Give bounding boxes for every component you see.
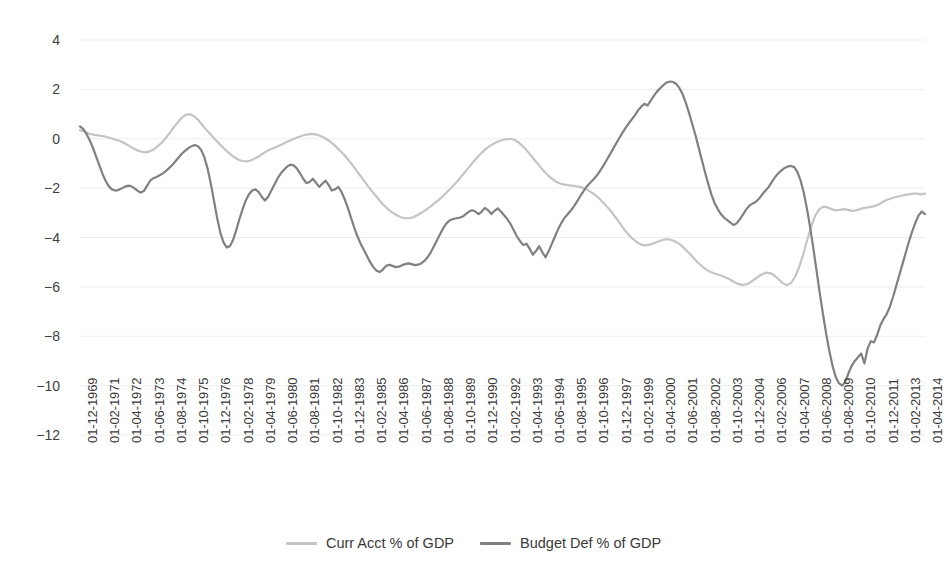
y-axis-tick-label: −12: [14, 427, 60, 443]
y-axis-tick-label: 4: [14, 32, 60, 48]
x-axis-tick-label: 01-04-1986: [396, 378, 411, 444]
legend-swatch-icon: [286, 542, 317, 545]
x-axis-tick-label: 01-04-2014: [930, 378, 945, 444]
x-axis-tick-label: 01-12-2004: [752, 378, 767, 444]
x-axis-tick-label: 01-12-1969: [85, 378, 100, 444]
x-axis-tick-label: 01-06-2008: [819, 378, 834, 444]
x-axis-tick-label: 01-06-1994: [552, 378, 567, 444]
x-axis-tick-label: 01-12-2011: [886, 378, 901, 443]
x-axis-tick-label: 01-02-1978: [241, 378, 256, 444]
y-axis-tick-label: −10: [14, 378, 60, 394]
x-axis-tick-label: 01-04-1972: [129, 378, 144, 444]
x-axis-tick-label: 01-12-1990: [485, 378, 500, 444]
x-axis-tick-label: 01-12-1976: [218, 378, 233, 444]
x-axis-tick-label: 01-10-1989: [463, 378, 478, 444]
y-axis-tick-label: −8: [14, 328, 60, 344]
chart-legend: Curr Acct % of GDPBudget Def % of GDP: [0, 536, 947, 551]
y-axis-tick-label: 2: [14, 81, 60, 97]
chart-container: 420−2−4−6−8−10−12 01-12-196901-02-197101…: [0, 0, 947, 577]
x-axis-tick-label: 01-06-1980: [285, 378, 300, 444]
x-axis-tick-label: 01-08-1995: [574, 378, 589, 444]
gridlines: [80, 40, 925, 435]
plot-area: [0, 0, 947, 577]
x-axis-tick-label: 01-12-1983: [352, 378, 367, 444]
legend-swatch-icon: [480, 542, 511, 545]
x-axis-tick-label: 01-08-2009: [841, 378, 856, 444]
x-axis-tick-label: 01-10-1982: [330, 378, 345, 444]
legend-label: Curr Acct % of GDP: [326, 536, 454, 551]
x-axis-tick-label: 01-06-1987: [419, 378, 434, 444]
x-axis-tick-label: 01-08-1988: [441, 378, 456, 444]
x-axis-tick-label: 01-06-2001: [685, 378, 700, 444]
x-axis-tick-label: 01-12-1997: [619, 378, 634, 444]
x-axis-tick-label: 01-10-1996: [596, 378, 611, 444]
x-axis-tick-label: 01-06-1973: [152, 378, 167, 444]
x-axis-tick-label: 01-02-1985: [374, 378, 389, 444]
x-axis-tick-label: 01-08-1974: [174, 378, 189, 444]
y-axis-tick-label: −4: [14, 230, 60, 246]
x-axis-tick-label: 01-08-2002: [708, 378, 723, 444]
y-axis-tick-label: −6: [14, 279, 60, 295]
x-axis-tick-label: 01-10-2010: [863, 378, 878, 444]
x-axis-tick-label: 01-04-1993: [530, 378, 545, 444]
y-axis-tick-label: 0: [14, 131, 60, 147]
series-lines: [80, 81, 925, 385]
x-axis-tick-label: 01-02-1971: [107, 378, 122, 444]
x-axis-tick-label: 01-04-2007: [797, 378, 812, 444]
x-axis-tick-label: 01-02-1992: [508, 378, 523, 444]
legend-item-1[interactable]: Curr Acct % of GDP: [286, 536, 454, 551]
x-axis-tick-label: 01-10-2003: [730, 378, 745, 444]
y-axis-tick-label: −2: [14, 180, 60, 196]
x-axis-tick-label: 01-04-2000: [663, 378, 678, 444]
x-axis-tick-label: 01-02-1999: [641, 378, 656, 444]
x-axis-tick-label: 01-10-1975: [196, 378, 211, 444]
legend-item-2[interactable]: Budget Def % of GDP: [480, 536, 661, 551]
series-line-2: [80, 81, 925, 385]
x-axis-tick-label: 01-04-1979: [263, 378, 278, 444]
x-axis-tick-label: 01-02-2013: [908, 378, 923, 444]
x-axis-tick-label: 01-02-2006: [774, 378, 789, 444]
legend-label: Budget Def % of GDP: [520, 536, 661, 551]
x-axis-tick-label: 01-08-1981: [307, 378, 322, 444]
series-line-1: [80, 114, 925, 285]
